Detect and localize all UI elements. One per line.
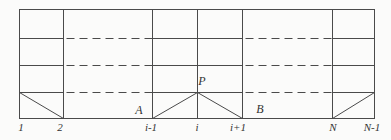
mesh-diagram-svg: 1 2 i-1 i i+1 N N-1 A P B xyxy=(0,0,391,140)
label-node-i-minus-1: i-1 xyxy=(145,121,157,133)
label-point-B: B xyxy=(256,102,264,116)
mesh-diagram: 1 2 i-1 i i+1 N N-1 A P B xyxy=(0,0,391,140)
label-node-N: N xyxy=(328,121,337,133)
label-node-i-plus-1: i+1 xyxy=(230,121,246,133)
label-node-last: N-1 xyxy=(363,121,381,133)
label-node-2: 2 xyxy=(57,121,63,133)
label-node-i: i xyxy=(195,121,198,133)
label-node-1: 1 xyxy=(18,121,24,133)
label-point-A: A xyxy=(134,103,143,117)
label-point-P: P xyxy=(197,74,206,88)
